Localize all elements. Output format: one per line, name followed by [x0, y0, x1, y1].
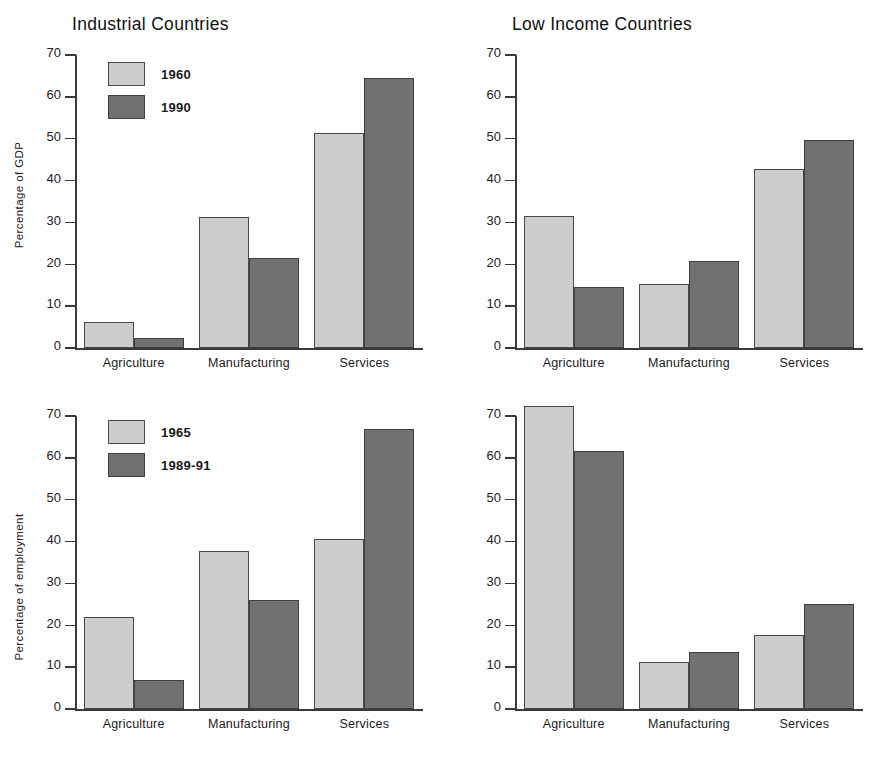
- bar: [754, 169, 804, 348]
- legend-label: 1965: [161, 425, 191, 440]
- y-axis-tick: 20: [505, 264, 516, 266]
- bar: [524, 216, 574, 348]
- y-axis-tick: 50: [65, 138, 76, 140]
- y-axis-label: Percentage of employment: [6, 442, 32, 732]
- bar: [639, 284, 689, 348]
- y-axis-label-text: Percentage of GDP: [13, 142, 25, 249]
- x-axis-category-label: Agriculture: [543, 356, 605, 370]
- x-axis-category-label: Agriculture: [103, 356, 165, 370]
- bar: [689, 261, 739, 348]
- x-axis-line: [75, 348, 423, 350]
- y-axis-tick-label: 50: [47, 129, 61, 144]
- legend-swatch-1960: [108, 62, 145, 86]
- x-axis-category-labels: AgricultureManufacturingServices: [516, 356, 862, 376]
- y-axis-tick-label: 30: [487, 574, 501, 589]
- y-axis-tick: 50: [505, 138, 516, 140]
- y-axis-tick-label: 30: [47, 574, 61, 589]
- y-axis-tick-label: 30: [487, 213, 501, 228]
- x-axis-category-label: Services: [340, 356, 390, 370]
- y-axis-tick-label: 50: [47, 490, 61, 505]
- bar: [689, 652, 739, 709]
- y-axis-tick: 10: [65, 305, 76, 307]
- y-axis-tick: 70: [505, 415, 516, 417]
- y-axis-tick: 20: [65, 264, 76, 266]
- panel-lowincome-gdp: Low Income Countries 010203040506070 Agr…: [440, 0, 878, 392]
- y-axis-tick-label: 50: [487, 490, 501, 505]
- y-axis-tick: 50: [65, 499, 76, 501]
- y-axis-tick: 40: [65, 541, 76, 543]
- y-axis-tick-label: 40: [487, 171, 501, 186]
- bar: [574, 287, 624, 348]
- y-axis-tick-label: 10: [487, 296, 501, 311]
- y-axis-tick-label: 40: [47, 171, 61, 186]
- bar: [574, 451, 624, 709]
- legend-item: 1990: [108, 95, 191, 119]
- bar: [134, 338, 184, 348]
- y-axis-tick: 70: [65, 54, 76, 56]
- legend: 19651989-91: [108, 420, 211, 477]
- y-axis-tick-label: 10: [47, 296, 61, 311]
- y-axis-label: Percentage of GDP: [6, 50, 32, 340]
- legend: 19601990: [108, 62, 191, 119]
- legend-swatch-1965: [108, 420, 145, 444]
- x-axis-category-labels: AgricultureManufacturingServices: [76, 356, 422, 376]
- bar: [134, 680, 184, 709]
- bar: [364, 78, 414, 348]
- y-axis-tick-label: 60: [47, 448, 61, 463]
- y-axis-tick: 0: [65, 347, 76, 349]
- bar: [314, 539, 364, 709]
- bar: [804, 140, 854, 348]
- bar: [199, 217, 249, 348]
- legend-label: 1960: [161, 67, 191, 82]
- y-axis-tick-label: 70: [487, 45, 501, 60]
- y-axis-tick: 50: [505, 499, 516, 501]
- y-axis-tick-label: 0: [54, 338, 61, 353]
- y-axis-tick-label: 20: [487, 616, 501, 631]
- y-axis-tick: 70: [65, 415, 76, 417]
- x-axis-category-label: Manufacturing: [208, 356, 290, 370]
- legend-item: 1965: [108, 420, 211, 444]
- x-axis-line: [515, 348, 863, 350]
- x-axis-category-labels: AgricultureManufacturingServices: [76, 717, 422, 737]
- y-axis-tick: 30: [65, 222, 76, 224]
- y-axis-tick: 60: [65, 96, 76, 98]
- bar: [199, 551, 249, 709]
- y-axis-tick-label: 70: [47, 45, 61, 60]
- x-axis-category-labels: AgricultureManufacturingServices: [516, 717, 862, 737]
- bar: [804, 604, 854, 709]
- y-axis-tick-label: 60: [47, 87, 61, 102]
- y-axis-tick-label: 0: [494, 699, 501, 714]
- legend-item: 1960: [108, 62, 191, 86]
- y-axis-tick-label: 60: [487, 448, 501, 463]
- legend-label: 1989-91: [161, 458, 211, 473]
- x-axis-category-label: Services: [340, 717, 390, 731]
- legend-item: 1989-91: [108, 453, 211, 477]
- bar: [314, 133, 364, 348]
- figure-four-panel-bar-charts: Industrial Countries Percentage of GDP 0…: [0, 0, 878, 777]
- panel-title: Industrial Countries: [72, 14, 229, 35]
- panel-title: Low Income Countries: [512, 14, 692, 35]
- y-axis-tick: 0: [505, 347, 516, 349]
- panel-industrial-gdp: Industrial Countries Percentage of GDP 0…: [0, 0, 440, 392]
- bar: [754, 635, 804, 709]
- y-axis-tick-label: 0: [494, 338, 501, 353]
- y-axis-tick-label: 20: [487, 255, 501, 270]
- x-axis-category-label: Services: [780, 356, 830, 370]
- y-axis-tick: 40: [65, 180, 76, 182]
- x-axis-category-label: Manufacturing: [648, 356, 730, 370]
- y-axis-label-text: Percentage of employment: [13, 513, 25, 660]
- plot-area: 010203040506070: [516, 55, 862, 348]
- y-axis-tick-label: 40: [47, 532, 61, 547]
- panel-lowincome-employment: 010203040506070 AgricultureManufacturing…: [440, 392, 878, 777]
- legend-swatch-1990: [108, 95, 145, 119]
- plot-area: 010203040506070: [516, 416, 862, 709]
- bar: [364, 429, 414, 709]
- y-axis-tick: 40: [505, 541, 516, 543]
- bars-group: [516, 416, 862, 709]
- x-axis-category-label: Manufacturing: [208, 717, 290, 731]
- y-axis-tick: 30: [65, 583, 76, 585]
- y-axis-tick: 30: [505, 583, 516, 585]
- y-axis-tick: 10: [505, 666, 516, 668]
- y-axis-tick-label: 70: [487, 406, 501, 421]
- x-axis-line: [515, 709, 863, 711]
